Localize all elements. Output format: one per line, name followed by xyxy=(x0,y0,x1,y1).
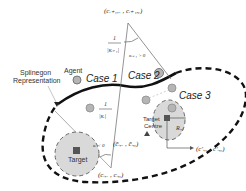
target-centre-line1: Target xyxy=(143,116,160,122)
agent-case3-c-icon xyxy=(168,104,176,112)
kappa-positive-label: κᵢ₊₁ > 0 xyxy=(129,53,146,58)
bottom-vertex-coord: (cᵢ,ₓ , cᵢ,ᵧ) xyxy=(98,171,124,179)
inv-kappa-top-num: 1 xyxy=(113,35,116,41)
angle-arc-bottom xyxy=(100,154,111,157)
splinegon-pointer xyxy=(48,86,56,102)
target-label: Target xyxy=(68,156,88,164)
splinegon-diagram: Target Splinegon Representation Agent Ca… xyxy=(0,0,246,191)
inv-kappa-bottom-num: 1 xyxy=(104,101,107,107)
target-centre-line2: Centre xyxy=(144,123,163,129)
projected-coord: (c′ᵢ,ₓ , c′ᵢ,ᵧ) xyxy=(196,145,225,153)
case3-label: Case 3 xyxy=(179,90,211,101)
agent-icon xyxy=(73,76,81,84)
target-centre-coord: (c̄ᵢ,ₓ , c̄ᵢ,ᵧ) xyxy=(113,140,139,148)
case1-label: Case 1 xyxy=(86,73,118,84)
agent-below-curve-icon xyxy=(86,104,94,112)
target-square-icon xyxy=(73,147,80,154)
agent-case3-a-icon xyxy=(142,96,150,104)
target-centre-triangle-icon xyxy=(144,131,150,136)
inv-kappa-top-den: |κᵢ₊₁| xyxy=(107,47,120,53)
radius-label: Rᵢ,ⱼ xyxy=(175,125,184,131)
case3-connector xyxy=(149,90,169,98)
splinegon-label-line2: Representation xyxy=(13,77,61,85)
top-vertex-coord: (cᵢ₊₁,ₓ , cᵢ₊₁,ᵧ) xyxy=(104,7,143,15)
kappa-negative-label: κᵢ < 0 xyxy=(93,143,105,148)
target-square-case3-icon xyxy=(164,115,170,121)
case2-label: Case 2 xyxy=(128,70,160,81)
agent-label: Agent xyxy=(64,67,82,75)
projection-arrowhead xyxy=(190,146,194,150)
inv-kappa-bottom-den: |κᵢ| xyxy=(99,113,106,119)
agent-case3-b-icon xyxy=(168,84,176,92)
splinegon-label-line1: Splinegon xyxy=(20,69,51,77)
